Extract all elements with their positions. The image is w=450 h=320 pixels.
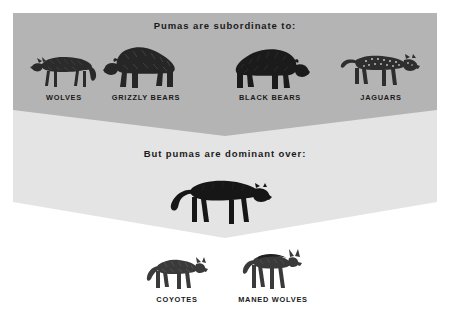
heading-subordinate: Pumas are subordinate to: <box>0 20 450 31</box>
coyote-figure <box>146 250 208 292</box>
puma-figure <box>168 172 272 228</box>
heading-dominant: But pumas are dominant over: <box>0 148 450 159</box>
label-wolves: WOLVES <box>28 93 100 102</box>
label-jaguars: JAGUARS <box>344 93 418 102</box>
maned-wolf-figure <box>240 246 302 292</box>
label-black-bears: BLACK BEARS <box>226 93 314 102</box>
grizzly-bear-figure <box>103 38 187 90</box>
label-grizzly-bears: GRIZZLY BEARS <box>101 93 191 102</box>
label-coyotes: COYOTES <box>140 295 214 304</box>
jaguar-figure <box>340 44 422 90</box>
poster-canvas: Pumas are subordinate to: But pumas are … <box>0 0 450 320</box>
label-maned-wolves: MANED WOLVES <box>228 295 318 304</box>
black-bear-figure <box>228 41 310 90</box>
wolf-figure <box>30 46 98 90</box>
